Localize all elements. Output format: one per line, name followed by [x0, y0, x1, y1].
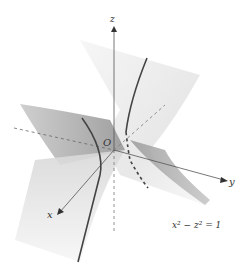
z-axis-label: z — [109, 14, 115, 24]
y-axis-arrow-icon — [220, 177, 228, 183]
origin-label: O — [103, 137, 111, 148]
front-sheet-surface — [15, 150, 125, 262]
x-axis-label: x — [47, 209, 53, 220]
equation-label: x² − z² = 1 — [172, 220, 221, 230]
y-axis-label: y — [228, 176, 235, 187]
hyperbolic-cylinder-diagram: z y x O x² − z² = 1 — [0, 0, 246, 267]
z-axis-arrow-icon — [111, 26, 117, 32]
